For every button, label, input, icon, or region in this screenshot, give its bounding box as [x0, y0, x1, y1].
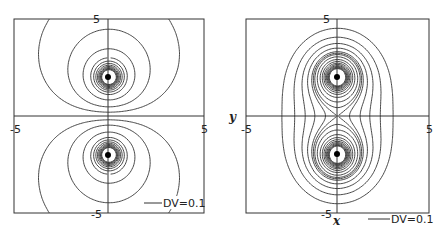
charge-lower: [334, 151, 340, 157]
tick-y-max: 5: [93, 13, 100, 26]
tick-x-max: 5: [426, 123, 433, 136]
charge-positive: [105, 74, 111, 80]
plot-like-charges: 5 -5 -5 5 y x DV=0.1: [228, 13, 434, 228]
x-axis-label: x: [332, 214, 341, 228]
charge-negative: [105, 152, 111, 158]
contour-figure: 5 -5 -5 5 DV=0.1 5 -5 -5 5 y x DV=0.1: [0, 0, 443, 241]
legend-label: DV=0.1: [163, 197, 206, 210]
tick-x-min: -5: [10, 123, 21, 136]
contour-line: [39, 19, 180, 112]
tick-y-min: -5: [91, 208, 102, 221]
plot-dipole: 5 -5 -5 5 DV=0.1: [10, 13, 208, 221]
y-axis-label: y: [228, 110, 237, 124]
tick-x-max: 5: [201, 123, 208, 136]
legend-label: DV=0.1: [391, 213, 434, 226]
tick-y-max: 5: [323, 13, 330, 26]
charge-upper: [334, 74, 340, 80]
tick-y-min: -5: [321, 208, 332, 221]
tick-x-min: -5: [241, 123, 252, 136]
